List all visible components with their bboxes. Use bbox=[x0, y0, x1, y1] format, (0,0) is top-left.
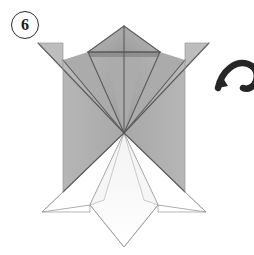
peak-left-lower-band bbox=[88, 52, 124, 57]
step-number-badge: 6 bbox=[11, 11, 39, 39]
origami-diagram-stage: 6 bbox=[0, 0, 254, 255]
step-number-label: 6 bbox=[21, 17, 29, 33]
peak-right-lower-band bbox=[124, 52, 160, 57]
turn-over-arrow-icon bbox=[214, 56, 254, 98]
origami-figure bbox=[0, 0, 254, 255]
